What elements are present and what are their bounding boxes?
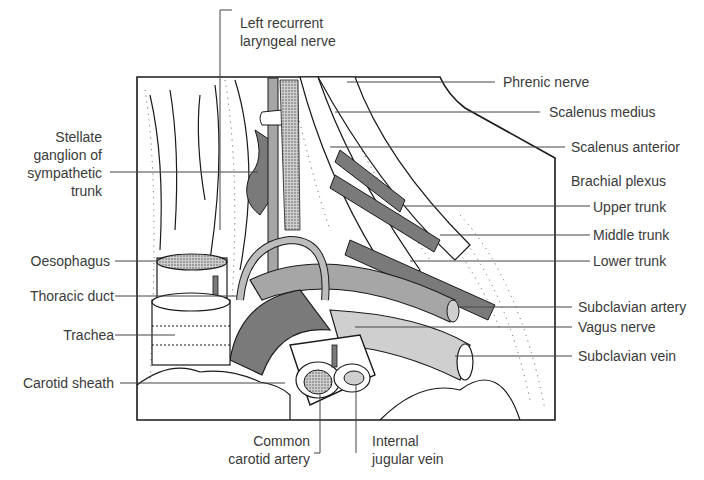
- label-line: Internal: [372, 432, 444, 450]
- label-line: Left recurrent: [240, 14, 336, 32]
- label-line: Stellate: [27, 128, 102, 146]
- label-vagus-nerve: Vagus nerve: [578, 318, 656, 336]
- label-lower-trunk: Lower trunk: [593, 252, 666, 270]
- label-subclavian-artery: Subclavian artery: [578, 298, 686, 316]
- label-internal-jugular-vein: Internal jugular vein: [372, 432, 444, 468]
- label-stellate-ganglion: Stellate ganglion of sympathetic trunk: [27, 128, 102, 200]
- label-left-recurrent-laryngeal-nerve: Left recurrent laryngeal nerve: [240, 14, 336, 50]
- label-brachial-plexus: Brachial plexus: [571, 172, 666, 190]
- label-line: jugular vein: [372, 450, 444, 468]
- label-line: trunk: [27, 182, 102, 200]
- label-line: laryngeal nerve: [240, 32, 336, 50]
- label-phrenic-nerve: Phrenic nerve: [503, 73, 589, 91]
- label-subclavian-vein: Subclavian vein: [578, 347, 676, 365]
- label-scalenus-anterior: Scalenus anterior: [571, 138, 680, 156]
- label-trachea: Trachea: [63, 326, 114, 344]
- label-middle-trunk: Middle trunk: [593, 226, 669, 244]
- trachea-shape: [152, 293, 230, 365]
- label-thoracic-duct: Thoracic duct: [30, 287, 114, 305]
- oesophagus-shape: [157, 254, 227, 298]
- label-upper-trunk: Upper trunk: [593, 198, 666, 216]
- label-oesophagus: Oesophagus: [31, 252, 110, 270]
- label-line: sympathetic: [27, 164, 102, 182]
- label-line: Common: [228, 432, 310, 450]
- label-carotid-sheath: Carotid sheath: [23, 374, 114, 392]
- label-scalenus-medius: Scalenus medius: [549, 103, 656, 121]
- label-line: carotid artery: [228, 450, 310, 468]
- label-line: ganglion of: [27, 146, 102, 164]
- label-common-carotid-artery: Common carotid artery: [228, 432, 310, 468]
